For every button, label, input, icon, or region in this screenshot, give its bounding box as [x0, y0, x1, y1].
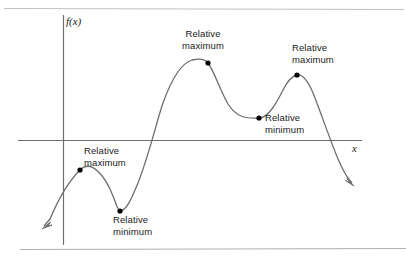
label-relative-maximum-3: Relative maximum: [292, 42, 334, 65]
label-relative-maximum-3-line1: Relative: [292, 42, 334, 54]
label-relative-maximum-1-line1: Relative: [84, 145, 126, 157]
label-relative-minimum-1-line2: minimum: [113, 226, 152, 238]
point-relative-minimum-1: [117, 208, 122, 213]
label-relative-maximum-2-line2: maximum: [182, 40, 224, 52]
label-relative-maximum-1-line2: maximum: [84, 157, 126, 169]
point-relative-maximum-2: [205, 60, 210, 65]
label-relative-maximum-2-line1: Relative: [182, 28, 224, 40]
label-relative-maximum-1: Relative maximum: [84, 145, 126, 168]
label-relative-minimum-2-line2: minimum: [265, 124, 304, 136]
figure-relative-extrema: f(x) x Relative maximum Relative minimum…: [0, 0, 406, 263]
point-relative-maximum-3: [294, 72, 299, 77]
point-relative-maximum-1: [77, 167, 82, 172]
x-axis-label: x: [352, 142, 357, 154]
frame-top-rule: [4, 9, 404, 10]
function-curve: [50, 59, 348, 219]
label-relative-minimum-2: Relative minimum: [265, 112, 304, 135]
frame-bottom-rule: [20, 249, 406, 250]
label-relative-minimum-1: Relative minimum: [113, 214, 152, 237]
label-relative-minimum-1-line1: Relative: [113, 214, 152, 226]
label-relative-minimum-2-line1: Relative: [265, 112, 304, 124]
point-relative-minimum-2: [256, 115, 261, 120]
label-relative-maximum-2: Relative maximum: [182, 28, 224, 51]
label-relative-maximum-3-line2: maximum: [292, 54, 334, 66]
y-axis-label: f(x): [66, 15, 81, 27]
